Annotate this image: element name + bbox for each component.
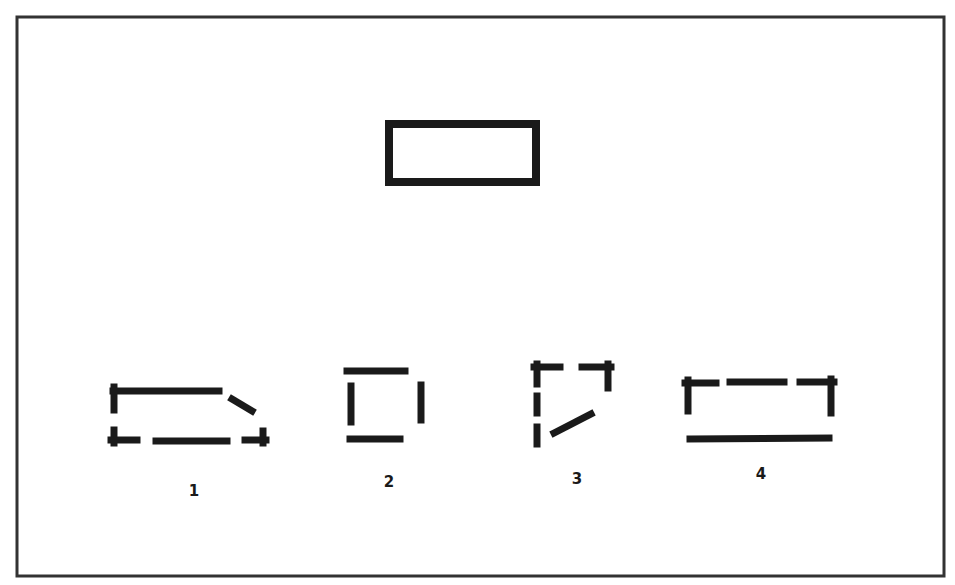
answer-options: 1234	[111, 364, 834, 500]
option-label: 3	[572, 470, 582, 488]
option-figure-4: 4	[685, 379, 834, 483]
option-label: 2	[384, 473, 394, 491]
option-label: 4	[756, 465, 766, 483]
diagram-canvas: 1234	[0, 0, 955, 585]
figure-frame	[17, 17, 944, 576]
option-figure-2: 2	[347, 371, 421, 491]
option-figure-1: 1	[111, 387, 266, 500]
option-figure-3: 3	[534, 364, 611, 488]
line-segment	[690, 438, 829, 439]
line-segment	[554, 414, 591, 433]
target-rectangle	[389, 124, 536, 182]
option-label: 1	[189, 482, 199, 500]
line-segment	[232, 399, 252, 411]
